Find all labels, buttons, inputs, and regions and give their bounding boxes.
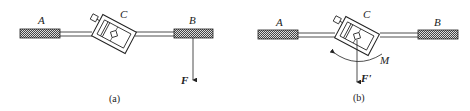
panel-b: A C B M F' (b)	[258, 8, 458, 104]
label-b: B	[434, 16, 441, 28]
handle-a	[20, 29, 60, 38]
handle-b	[174, 29, 213, 38]
label-force: F'	[360, 72, 371, 84]
label-c: C	[120, 8, 128, 20]
caption-b: (b)	[353, 92, 365, 104]
tap-wrench-body	[327, 12, 380, 55]
label-c: C	[363, 8, 371, 20]
adjust-screw	[90, 14, 98, 22]
moment-arc	[333, 52, 382, 62]
diagram-canvas: A C B F (a) A C B M F' (b)	[0, 0, 470, 111]
caption-a: (a)	[109, 93, 120, 105]
handle-a	[258, 30, 298, 39]
label-a: A	[37, 14, 45, 26]
label-force: F	[180, 74, 189, 86]
label-moment: M	[379, 54, 390, 66]
label-a: A	[275, 16, 283, 28]
adjust-screw	[333, 16, 341, 24]
panel-a: A C B F (a)	[20, 8, 213, 105]
handle-b	[418, 30, 458, 39]
label-b: B	[189, 14, 196, 26]
